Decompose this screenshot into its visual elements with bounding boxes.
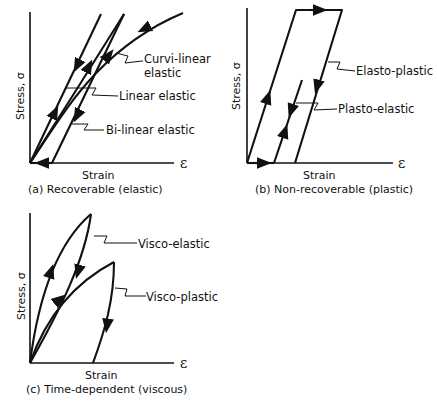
label-elasto-plastic: Elasto-plastic <box>356 64 433 78</box>
label-curvi-linear: Curvi-linear <box>144 52 211 66</box>
panel-b-epsilon: ε <box>398 155 405 171</box>
elasto-plastic-curve <box>247 10 342 163</box>
stress-strain-diagram: Curvi-linear elastic Linear elastic Bi-l… <box>0 0 437 406</box>
panel-c-epsilon: ε <box>180 355 187 371</box>
label-curvi-linear-2: elastic <box>144 66 181 80</box>
visco-plastic-unloading <box>93 262 114 363</box>
panel-b-caption: (b) Non-recoverable (plastic) <box>255 183 413 196</box>
arrow-up-icon <box>52 112 55 118</box>
panel-b-x-label: Strain <box>303 169 336 182</box>
panel-c-y-label: Stress, σ <box>15 272 28 320</box>
leader-bilinear <box>72 124 104 130</box>
label-visco-plastic: Visco-plastic <box>146 290 218 304</box>
arrow-down-icon <box>77 60 80 66</box>
label-plasto-elastic: Plasto-elastic <box>338 102 414 116</box>
panel-a-x-label: Strain <box>82 169 115 182</box>
leader-visco-plastic <box>115 288 146 296</box>
arrow-up-icon <box>105 55 109 60</box>
panel-a-caption: (a) Recoverable (elastic) <box>28 183 163 196</box>
panel-c-time-dependent: Visco-elastic Visco-plastic Stress, σ ε … <box>15 213 218 396</box>
panel-a-recoverable: Curvi-linear elastic Linear elastic Bi-l… <box>14 12 211 196</box>
arrow-up-icon <box>266 97 268 103</box>
arrow-up-icon <box>55 299 60 303</box>
visco-plastic-loading <box>30 262 114 363</box>
leader-plasto-elastic <box>296 103 337 110</box>
label-linear-elastic: Linear elastic <box>119 89 196 103</box>
panel-c-x-label: Strain <box>85 369 118 382</box>
panel-a-y-label: Stress, σ <box>14 72 27 120</box>
label-visco-elastic: Visco-elastic <box>138 237 210 251</box>
curvi-linear-elastic-curve <box>30 13 183 163</box>
panel-b-y-label: Stress, σ <box>230 62 243 110</box>
panel-b-non-recoverable: Elasto-plastic Plasto-elastic Stress, σ … <box>230 8 433 196</box>
leader-curvi-linear <box>116 53 143 63</box>
arrow-down-icon <box>107 319 108 326</box>
arrow-up-icon <box>283 131 285 137</box>
leader-elasto-plastic <box>328 62 355 71</box>
panel-a-epsilon: ε <box>180 155 187 171</box>
panel-c-caption: (c) Time-dependent (viscous) <box>26 383 187 396</box>
arrow-down-icon <box>144 26 150 29</box>
leader-visco-elastic <box>94 236 137 243</box>
label-bi-linear-elastic: Bi-linear elastic <box>106 123 195 137</box>
